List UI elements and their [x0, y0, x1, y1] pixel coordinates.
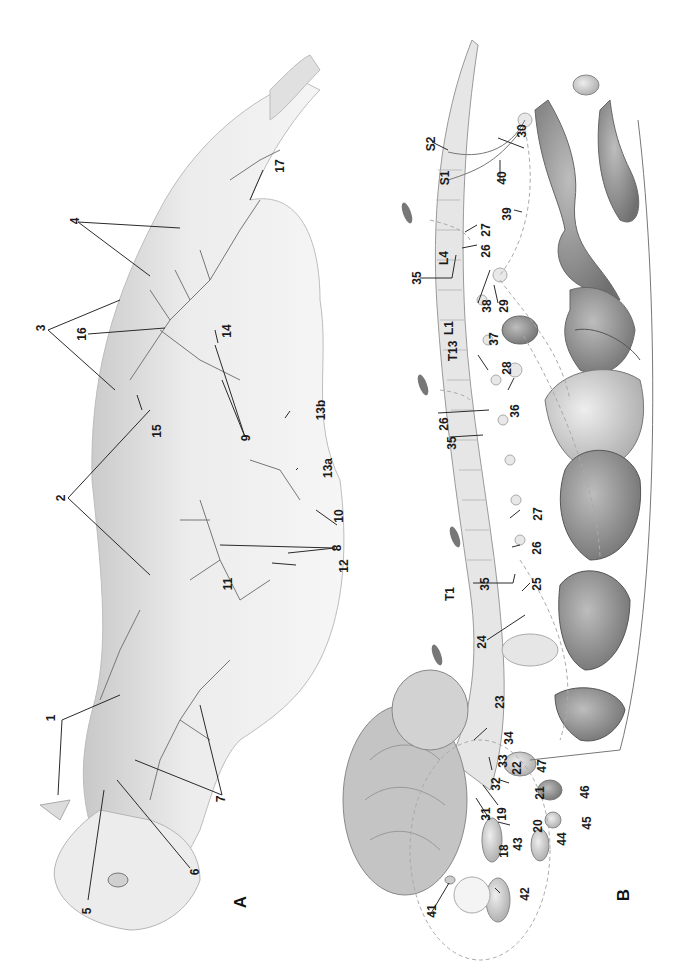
label-7: 7	[215, 796, 227, 803]
label-18: 18	[498, 844, 510, 857]
vertebra-l1: L1	[443, 321, 455, 335]
label-47: 47	[536, 759, 548, 772]
brain-drawing	[343, 670, 468, 895]
label-32: 32	[490, 777, 502, 790]
vertebra-t1: T1	[444, 587, 456, 601]
label-16: 16	[76, 327, 88, 340]
label-6: 6	[189, 869, 201, 876]
anatomical-figure: A B 1 2 3 4 5 6 7 8 9 10 11 12 13a 13b 1…	[0, 0, 676, 965]
label-1: 1	[45, 715, 57, 722]
label-3: 3	[35, 325, 47, 332]
vertebra-s1: S1	[439, 171, 451, 186]
panel-b-label: B	[614, 889, 634, 901]
label-31: 31	[480, 807, 492, 820]
label-33: 33	[497, 754, 509, 767]
label-9: 9	[240, 435, 252, 442]
panel-a-label: A	[231, 896, 251, 908]
label-27-thoracic: 27	[532, 507, 544, 520]
label-26-lumbar: 26	[438, 417, 450, 430]
label-23: 23	[494, 695, 506, 708]
label-25: 25	[531, 577, 543, 590]
label-35-lumbar: 35	[446, 436, 458, 449]
label-19: 19	[496, 807, 508, 820]
label-14: 14	[221, 324, 233, 337]
label-29: 29	[498, 299, 510, 312]
label-41: 41	[426, 904, 438, 917]
label-26-caudal: 26	[480, 244, 492, 257]
label-8: 8	[331, 545, 343, 552]
label-2: 2	[55, 495, 67, 502]
label-27-caudal: 27	[480, 223, 492, 236]
label-35-caudal: 35	[411, 271, 423, 284]
label-22: 22	[511, 761, 523, 774]
label-26-thoracic: 26	[531, 541, 543, 554]
cat-body-drawing	[40, 55, 344, 930]
label-36: 36	[509, 404, 521, 417]
figure-artwork	[0, 0, 676, 965]
label-39: 39	[501, 207, 513, 220]
label-42: 42	[519, 887, 531, 900]
label-44: 44	[556, 832, 568, 845]
label-45: 45	[581, 816, 593, 829]
vertebra-t13: T13	[447, 341, 459, 362]
label-4: 4	[69, 218, 81, 225]
label-40: 40	[496, 171, 508, 184]
label-30: 30	[516, 124, 528, 137]
label-34: 34	[503, 731, 515, 744]
label-38: 38	[481, 299, 493, 312]
label-13b: 13b	[315, 400, 327, 421]
label-46: 46	[579, 785, 591, 798]
label-15: 15	[151, 424, 163, 437]
label-21: 21	[534, 786, 546, 799]
label-28: 28	[501, 361, 513, 374]
label-13a: 13a	[322, 458, 334, 478]
label-5: 5	[81, 908, 93, 915]
label-37: 37	[488, 332, 500, 345]
label-20: 20	[532, 819, 544, 832]
label-35-thoracic: 35	[479, 577, 491, 590]
vertebra-l4: L4	[438, 251, 450, 265]
label-17: 17	[274, 159, 286, 172]
label-24: 24	[476, 635, 488, 648]
label-11: 11	[222, 578, 234, 591]
label-43: 43	[512, 837, 524, 850]
label-10: 10	[333, 509, 345, 522]
label-12: 12	[338, 559, 350, 572]
vertebra-s2: S2	[425, 137, 437, 152]
